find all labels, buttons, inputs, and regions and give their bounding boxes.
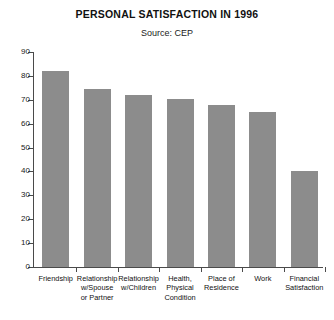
- bar-chart-figure: PERSONAL SATISFACTION IN 1996 Source: CE…: [0, 0, 334, 320]
- x-tick-mark: [159, 267, 160, 272]
- x-axis-label: Health,PhysicalCondition: [157, 274, 203, 302]
- x-axis-label-line: Friendship: [33, 274, 79, 283]
- y-tick-label: 20: [21, 213, 30, 224]
- bar: [125, 95, 152, 267]
- x-axis-label-line: Health,: [157, 274, 203, 283]
- y-tick-label: 90: [21, 46, 30, 57]
- x-axis-label-line: w/Children: [116, 283, 162, 292]
- bar: [208, 105, 235, 267]
- bar: [42, 71, 69, 267]
- x-axis-label: Friendship: [33, 274, 79, 283]
- x-tick-mark: [242, 267, 243, 272]
- x-axis-label-line: Financial: [281, 274, 327, 283]
- x-axis-label-line: Physical: [157, 283, 203, 292]
- x-tick-mark: [76, 267, 77, 272]
- y-tick-label: 10: [21, 237, 30, 248]
- x-tick-mark: [325, 267, 326, 272]
- x-axis-label-line: Relationship: [116, 274, 162, 283]
- bar: [249, 112, 276, 267]
- x-tick-mark: [201, 267, 202, 272]
- x-axis-label-line: or Partner: [74, 293, 120, 302]
- x-axis-label: Relationshipw/Children: [116, 274, 162, 293]
- bar: [291, 171, 318, 267]
- chart-title: PERSONAL SATISFACTION IN 1996: [0, 8, 334, 20]
- x-axis-label: Work: [240, 274, 286, 283]
- x-axis-label: Place ofResidence: [198, 274, 244, 293]
- x-axis-label-line: Place of: [198, 274, 244, 283]
- x-axis-label-line: w/Spouse: [74, 283, 120, 292]
- bar: [84, 89, 111, 267]
- x-axis-label: Relationshipw/Spouseor Partner: [74, 274, 120, 302]
- x-axis-label-line: Work: [240, 274, 286, 283]
- plot-area: 9080706050403020100: [33, 52, 323, 267]
- x-tick-mark: [118, 267, 119, 272]
- y-tick-label: 30: [21, 189, 30, 200]
- x-axis-label: FinancialSatisfaction: [281, 274, 327, 293]
- x-axis-label-line: Residence: [198, 283, 244, 292]
- x-tick-mark: [284, 267, 285, 272]
- bar: [167, 99, 194, 267]
- chart-subtitle: Source: CEP: [0, 28, 334, 38]
- x-axis-label-line: Condition: [157, 293, 203, 302]
- y-tick-label: 40: [21, 165, 30, 176]
- x-axis-label-line: Satisfaction: [281, 283, 327, 292]
- y-tick-label: 70: [21, 94, 30, 105]
- y-tick-label: 60: [21, 118, 30, 129]
- y-tick-label: 80: [21, 70, 30, 81]
- x-axis-label-line: Relationship: [74, 274, 120, 283]
- y-tick-label: 50: [21, 142, 30, 153]
- y-tick-label: 0: [26, 261, 30, 272]
